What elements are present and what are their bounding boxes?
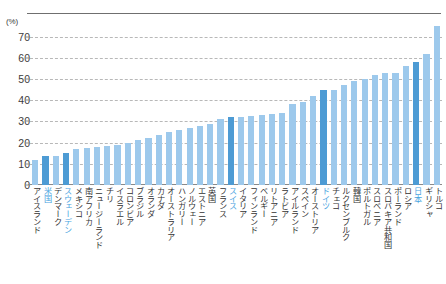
bar-slot (277, 26, 287, 185)
x-axis-tick-label: ルクセンブルク (340, 187, 349, 283)
x-axis-tick-label: 南アフリカ (82, 187, 91, 283)
bar[interactable] (289, 104, 295, 185)
x-axis-tick-label: ポーランド (391, 187, 400, 283)
bar[interactable] (310, 96, 316, 185)
bar-slot (112, 26, 122, 185)
x-label-slot: スウェーデン (61, 187, 71, 283)
bar[interactable] (73, 149, 79, 185)
x-axis-tick-label: ロシア (402, 187, 411, 283)
x-axis-tick-label: 日本 (412, 187, 421, 283)
x-label-slot: スロバキア共和国 (380, 187, 390, 283)
x-label-slot: エストニア (195, 187, 205, 283)
bar[interactable] (166, 132, 172, 185)
bar[interactable] (392, 73, 398, 185)
bar-slot (349, 26, 359, 185)
bar[interactable] (382, 73, 388, 185)
x-axis-tick-label: スイス (226, 187, 235, 283)
bar-slot (421, 26, 431, 185)
bar[interactable] (238, 117, 244, 185)
bar-slot (329, 26, 339, 185)
bar-slot (401, 26, 411, 185)
bar-slot (123, 26, 133, 185)
bar[interactable] (320, 90, 326, 185)
bar[interactable] (207, 124, 213, 185)
x-label-slot: イタリア (236, 187, 246, 283)
bar[interactable] (351, 81, 357, 185)
bar[interactable] (423, 54, 429, 185)
bar[interactable] (269, 114, 275, 185)
bar[interactable] (248, 116, 254, 185)
bar[interactable] (114, 145, 120, 185)
x-axis-tick-label: メキシコ (72, 187, 81, 283)
bar-slot (154, 26, 164, 185)
bar[interactable] (403, 66, 409, 185)
x-axis-tick-label: スペイン (299, 187, 308, 283)
bar[interactable] (84, 148, 90, 185)
x-axis-tick-label: カナダ (154, 187, 163, 283)
x-axis-tick-label: デンマーク (51, 187, 60, 283)
bar[interactable] (135, 140, 141, 185)
x-label-slot: ギリシャ (421, 187, 431, 283)
bar[interactable] (372, 75, 378, 185)
bar[interactable] (228, 117, 234, 185)
bar[interactable] (176, 130, 182, 185)
bar[interactable] (32, 160, 38, 185)
x-label-slot: デンマーク (51, 187, 61, 283)
bar[interactable] (197, 126, 203, 185)
bar-slot (390, 26, 400, 185)
bar[interactable] (362, 79, 368, 185)
x-axis-tick-label: ニュージーランド (93, 187, 102, 283)
x-axis-tick-label: スロバキア共和国 (381, 187, 390, 283)
x-label-slot: ルクセンブルク (339, 187, 349, 283)
x-label-slot: オーストリア (308, 187, 318, 283)
bar[interactable] (187, 128, 193, 185)
bar[interactable] (217, 119, 223, 185)
x-axis-tick-label: エストニア (196, 187, 205, 283)
x-label-slot: アイスランド (30, 187, 40, 283)
bar[interactable] (279, 113, 285, 185)
bar[interactable] (413, 62, 419, 185)
x-label-slot: スペイン (298, 187, 308, 283)
bar[interactable] (434, 26, 440, 185)
bar-slot (205, 26, 215, 185)
bar-slot (432, 26, 442, 185)
bar-slot (298, 26, 308, 185)
bar[interactable] (341, 85, 347, 185)
chart-page: (%) 010203040506070 アイスランド米国デンマークスウェーデンメ… (0, 0, 446, 284)
bar-slot (92, 26, 102, 185)
bar[interactable] (94, 147, 100, 185)
bar-slot (61, 26, 71, 185)
x-axis-tick-label: オーストリア (309, 187, 318, 283)
bar-slot (411, 26, 421, 185)
y-axis: 010203040506070 (0, 26, 30, 185)
x-label-slot: ノルウェー (184, 187, 194, 283)
x-axis-tick-label: ブラジル (134, 187, 143, 283)
x-axis-tick-label: オーストラリア (165, 187, 174, 283)
x-axis-tick-label: アイスランド (31, 187, 40, 283)
x-label-slot: フランス (215, 187, 225, 283)
x-label-slot: ロシア (401, 187, 411, 283)
bar[interactable] (300, 102, 306, 185)
bar[interactable] (42, 156, 48, 185)
x-axis-tick-label: ハンガリー (175, 187, 184, 283)
bar[interactable] (331, 90, 337, 185)
x-label-slot: 英国 (205, 187, 215, 283)
x-axis-tick-label: ベルギー (257, 187, 266, 283)
bar[interactable] (156, 135, 162, 185)
bar-slot (143, 26, 153, 185)
x-axis-tick-label: スウェーデン (62, 187, 71, 283)
bar-slot (267, 26, 277, 185)
bar[interactable] (145, 138, 151, 185)
x-axis-tick-label: 韓国 (350, 187, 359, 283)
bar[interactable] (53, 156, 59, 185)
bar[interactable] (125, 143, 131, 185)
x-axis-tick-label: ギリシャ (422, 187, 431, 283)
bar[interactable] (259, 115, 265, 185)
bar[interactable] (63, 153, 69, 185)
x-label-slot: ドイツ (318, 187, 328, 283)
x-axis-tick-label: イスラエル (113, 187, 122, 283)
bar-slot (81, 26, 91, 185)
x-label-slot: ラトビア (277, 187, 287, 283)
bar-slot (184, 26, 194, 185)
bar[interactable] (104, 146, 110, 185)
